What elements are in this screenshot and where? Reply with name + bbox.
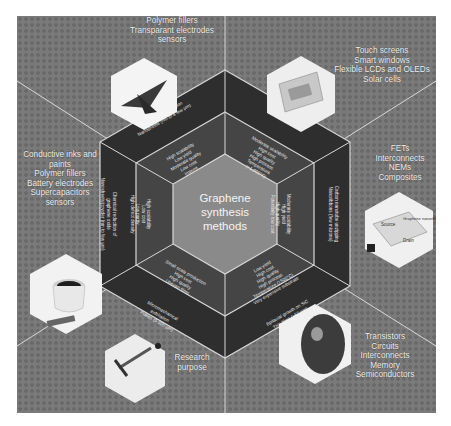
svg-text:High quality: High quality [275,202,280,227]
svg-text:High yield: High yield [281,204,286,225]
svg-text:Chemical reduction of: Chemical reduction of [112,192,117,237]
graphene-nanoribbon-device-image: Source Graphene nanoribbon Drain [365,192,436,268]
svg-text:Moderate scalability: Moderate scalability [286,194,291,235]
application-label-right: FETs Interconnects NEMs Composites [365,144,435,182]
application-label-top: Polymer fillers Transparant electrodes s… [117,16,227,45]
application-label-left: Conductive inks and paints Polymer fille… [17,150,103,208]
diagram-frame: Graphene synthesis methods Liquid phase … [17,16,436,413]
center-title-line3: methods [203,220,247,232]
svg-text:Potentially low cost: Potentially low cost [270,194,275,234]
center-title-line2: synthesis [201,206,249,218]
svg-text:Nanoribbons (few microns): Nanoribbons (few microns) [328,187,333,242]
application-label-bottom-right: Transistors Circuits Interconnects Memor… [335,332,435,380]
svg-text:Carbon nanotube unzipping: Carbon nanotube unzipping [334,186,339,243]
method-cnt-unzipping-outer: Carbon nanotube unzipping Nanoribbons (f… [328,186,339,243]
microscope-image [105,334,165,403]
svg-text:Source: Source [381,222,396,227]
ink-cup-image [30,254,102,334]
svg-text:Drain: Drain [403,238,414,243]
svg-text:Low cost: Low cost [141,205,146,224]
svg-text:Low purity: Low purity [135,204,140,226]
application-label-top-right: Touch screens Smart windows Flexible LCD… [327,46,436,84]
svg-text:High defect density: High defect density [130,194,135,234]
svg-text:graphene oxide: graphene oxide [106,198,111,230]
center-title-line1: Graphene [199,192,250,204]
application-label-bottom-left: Research purpose [167,353,217,372]
svg-text:High scalability: High scalability [146,199,151,230]
svg-text:Graphene nanoribbon: Graphene nanoribbon [403,216,436,221]
